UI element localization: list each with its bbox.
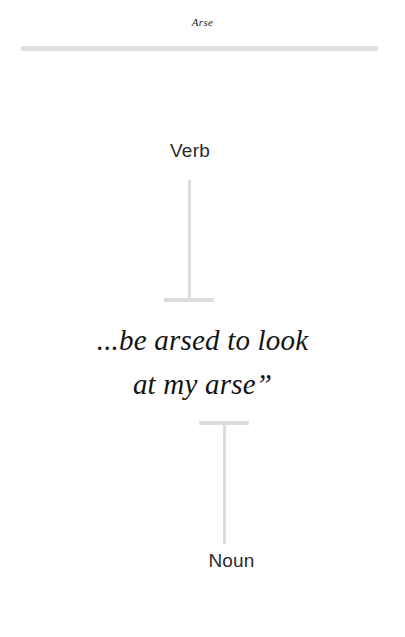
part-of-speech-label-verb: Verb: [0, 140, 380, 162]
header-divider-rule: [21, 46, 378, 51]
definition-line: ...be arsed to look: [0, 318, 405, 362]
connector-stem: [188, 180, 191, 299]
connector-crossbar: [164, 298, 214, 302]
dictionary-page: Arse Verb ...be arsed to look at my arse…: [0, 0, 405, 637]
connector-stem: [223, 423, 226, 544]
part-of-speech-label-noun: Noun: [0, 550, 405, 572]
definition-line: at my arse”: [0, 362, 405, 406]
connector-bracket-noun: [199, 421, 249, 545]
connector-bracket-verb: [164, 180, 214, 302]
running-head: Arse: [0, 16, 405, 28]
definition-phrase: ...be arsed to look at my arse”: [0, 318, 405, 406]
